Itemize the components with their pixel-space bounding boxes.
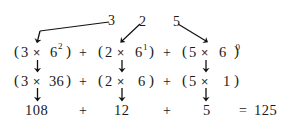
power-term-2-coefficient: 2 [105, 45, 113, 60]
power-term-2-open-paren: ( [98, 44, 103, 59]
expanded-separator-2: + [163, 75, 171, 89]
base-conversion-figure: 3 2 5 ( 3 × 6 2 ) + ( 2 × 6 1 ) + ( 5 × … [0, 0, 296, 126]
product-value-2: 12 [114, 103, 130, 118]
power-term-3-close-paren: ) [234, 44, 239, 59]
expanded-term-1-open-paren: ( [14, 73, 19, 88]
power-term-1-exponent: 2 [58, 42, 63, 51]
expanded-term-3-value: 1 [223, 74, 231, 89]
power-term-1-times-icon: × [33, 47, 40, 60]
power-term-3-coefficient: 5 [189, 45, 197, 60]
power-separator-1: + [79, 46, 87, 60]
power-term-2-base: 6 [135, 45, 143, 60]
expanded-term-1-close-paren: ) [66, 73, 71, 88]
expanded-term-1-coefficient: 3 [21, 74, 29, 89]
expanded-term-2-open-paren: ( [98, 73, 103, 88]
power-term-2-times-icon: × [117, 47, 124, 60]
source-digit-1: 3 [108, 14, 115, 28]
expanded-term-3-times-icon: × [201, 76, 208, 89]
expanded-term-1-times-icon: × [33, 76, 40, 89]
product-separator-1: + [79, 104, 87, 118]
expanded-term-3-close-paren: ) [234, 73, 239, 88]
power-term-1-base: 6 [50, 45, 58, 60]
product-value-1: 108 [25, 103, 48, 118]
power-term-2-exponent: 1 [143, 42, 148, 52]
expanded-term-2-coefficient: 2 [105, 74, 113, 89]
power-term-2-close-paren: ) [149, 44, 154, 59]
power-term-3-open-paren: ( [182, 44, 187, 59]
power-term-1-open-paren: ( [14, 44, 19, 59]
total-value: 125 [254, 103, 277, 118]
expanded-separator-1: + [79, 75, 87, 89]
expanded-term-2-value: 6 [138, 74, 146, 89]
product-separator-2: + [163, 104, 171, 118]
source-digit-3: 5 [173, 15, 180, 29]
expanded-term-2-times-icon: × [117, 76, 124, 89]
expanded-term-2-close-paren: ) [149, 73, 154, 88]
power-term-1-close-paren: ) [66, 44, 71, 59]
expanded-term-3-open-paren: ( [182, 73, 187, 88]
source-digit-2: 2 [139, 15, 146, 29]
equals-sign: = [239, 104, 247, 118]
expanded-term-3-coefficient: 5 [189, 74, 197, 89]
power-term-3-times-icon: × [201, 47, 208, 60]
power-separator-2: + [163, 46, 171, 60]
power-term-3-base: 6 [219, 45, 227, 60]
text-layer: 3 2 5 ( 3 × 6 2 ) + ( 2 × 6 1 ) + ( 5 × … [0, 0, 296, 126]
power-term-1-coefficient: 3 [21, 45, 29, 60]
expanded-term-1-value: 36 [49, 74, 64, 89]
product-value-3: 5 [203, 103, 211, 118]
